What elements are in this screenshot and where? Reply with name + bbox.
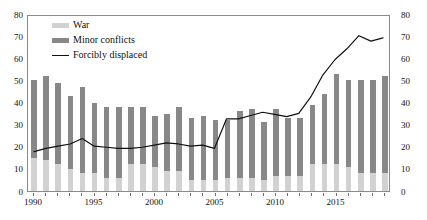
legend-swatch-war-icon bbox=[52, 23, 69, 28]
y-tick-label-right: 50 bbox=[401, 77, 410, 86]
y-tick-label-left: 40 bbox=[14, 99, 23, 108]
x-tick-mark bbox=[94, 193, 95, 196]
legend-label-minor-conflicts: Minor conflicts bbox=[73, 35, 135, 45]
x-tick-label: 2005 bbox=[206, 198, 224, 207]
x-tick-mark bbox=[178, 193, 179, 196]
y-axis-left: 01020304050607080 bbox=[0, 0, 23, 220]
x-tick-mark bbox=[190, 193, 191, 196]
x-tick-label: 1990 bbox=[24, 198, 42, 207]
x-tick-mark bbox=[154, 193, 155, 196]
y-tick-label-right: 30 bbox=[401, 121, 410, 130]
x-tick-mark bbox=[239, 193, 240, 196]
x-tick-mark bbox=[130, 193, 131, 196]
y-tick-label-right: 60 bbox=[401, 55, 410, 64]
x-tick-mark bbox=[275, 193, 276, 196]
x-tick-mark bbox=[118, 193, 119, 196]
x-tick-mark bbox=[106, 193, 107, 196]
y-tick-label-left: 80 bbox=[14, 11, 23, 20]
x-tick-mark bbox=[263, 193, 264, 196]
y-tick-label-right: 70 bbox=[401, 33, 410, 42]
x-tick-mark bbox=[360, 193, 361, 196]
legend-swatch-minor-conflicts-icon bbox=[52, 38, 69, 43]
x-tick-mark bbox=[33, 193, 34, 196]
y-tick-label-left: 70 bbox=[14, 33, 23, 42]
x-tick-label: 2015 bbox=[327, 198, 345, 207]
x-tick-mark bbox=[166, 193, 167, 196]
y-tick-label-left: 50 bbox=[14, 77, 23, 86]
x-tick-mark bbox=[372, 193, 373, 196]
legend-label-war: War bbox=[73, 20, 89, 30]
y-tick-label-right: 10 bbox=[401, 165, 410, 174]
x-tick-mark bbox=[142, 193, 143, 196]
y-tick-label-right: 0 bbox=[401, 188, 406, 197]
x-tick-mark bbox=[69, 193, 70, 196]
legend-swatch-forcibly-displaced-icon bbox=[52, 55, 69, 56]
y-tick-label-left: 0 bbox=[19, 188, 24, 197]
chart-figure: 01020304050607080 01020304050607080 1990… bbox=[0, 0, 427, 220]
y-tick-label-left: 30 bbox=[14, 121, 23, 130]
x-tick-mark bbox=[45, 193, 46, 196]
y-tick-label-right: 80 bbox=[401, 11, 410, 20]
x-tick-mark bbox=[384, 193, 385, 196]
y-tick-label-right: 40 bbox=[401, 99, 410, 108]
y-tick-label-left: 20 bbox=[14, 143, 23, 152]
y-tick-label-left: 60 bbox=[14, 55, 23, 64]
legend-item-minor-conflicts: Minor conflicts bbox=[52, 34, 147, 46]
x-tick-mark bbox=[287, 193, 288, 196]
y-tick-label-left: 10 bbox=[14, 165, 23, 174]
x-tick-mark bbox=[336, 193, 337, 196]
y-axis-right: 01020304050607080 bbox=[394, 0, 422, 220]
x-tick-mark bbox=[323, 193, 324, 196]
y-tick-label-right: 20 bbox=[401, 143, 410, 152]
x-tick-mark bbox=[251, 193, 252, 196]
x-tick-mark bbox=[227, 193, 228, 196]
chart-legend: War Minor conflicts Forcibly displaced bbox=[52, 19, 147, 61]
legend-item-war: War bbox=[52, 19, 147, 31]
x-axis: 199019952000200520102015 bbox=[27, 193, 390, 213]
x-tick-mark bbox=[299, 193, 300, 196]
x-tick-mark bbox=[348, 193, 349, 196]
x-tick-label: 1995 bbox=[85, 198, 103, 207]
x-tick-mark bbox=[81, 193, 82, 196]
x-tick-mark bbox=[215, 193, 216, 196]
legend-label-forcibly-displaced: Forcibly displaced bbox=[73, 50, 147, 60]
x-tick-mark bbox=[311, 193, 312, 196]
legend-item-forcibly-displaced: Forcibly displaced bbox=[52, 49, 147, 61]
x-tick-label: 2000 bbox=[145, 198, 163, 207]
x-tick-label: 2010 bbox=[266, 198, 284, 207]
x-tick-mark bbox=[57, 193, 58, 196]
x-tick-mark bbox=[202, 193, 203, 196]
